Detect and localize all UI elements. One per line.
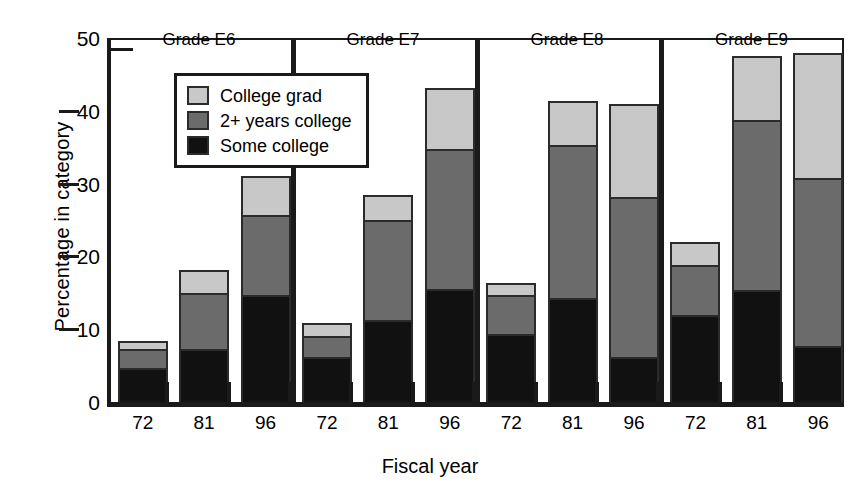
- bar-segment-two-years-college: [427, 149, 473, 289]
- bar-segment-two-years-college: [795, 178, 841, 345]
- x-tick-label: 81: [194, 412, 215, 434]
- y-tick-mark-top: [111, 48, 133, 51]
- bar-segment-two-years-college: [734, 120, 780, 290]
- x-tick-label: 81: [562, 412, 583, 434]
- bar-segment-two-years-college: [243, 215, 289, 295]
- bar-segment-two-years-college: [365, 220, 411, 320]
- y-tick-mark: [59, 255, 79, 258]
- bar-stack: [548, 101, 598, 402]
- x-tick-mark: [288, 382, 292, 404]
- bar-stack: [732, 56, 782, 402]
- x-tick-mark: [656, 382, 660, 404]
- x-tick-mark: [779, 382, 783, 404]
- x-axis-title: Fiscal year: [0, 455, 860, 478]
- bar-segment-college-grad: [611, 106, 657, 198]
- x-tick-mark: [349, 382, 353, 404]
- bar-segment-college-grad: [550, 103, 596, 144]
- bar-segment-college-grad: [427, 90, 473, 150]
- bar-stack: [118, 341, 168, 402]
- x-tick-label: 81: [746, 412, 767, 434]
- y-tick-mark: [59, 110, 79, 113]
- bar-segment-college-grad: [734, 58, 780, 120]
- legend-label-some-college: Some college: [220, 137, 329, 155]
- bar-stack: [670, 242, 720, 402]
- x-tick-label: 72: [501, 412, 522, 434]
- legend-item-some-college: Some college: [187, 133, 352, 158]
- x-tick-mark: [595, 382, 599, 404]
- bar-segment-some-college: [672, 315, 718, 402]
- x-tick-label: 72: [685, 412, 706, 434]
- x-tick-mark: [227, 382, 231, 404]
- bar-segment-college-grad: [365, 197, 411, 220]
- legend-swatch-some-college: [187, 136, 209, 155]
- bar-stack: [609, 104, 659, 402]
- bar-segment-two-years-college: [672, 265, 718, 315]
- bar-segment-two-years-college: [181, 293, 227, 349]
- x-tick-mark: [411, 382, 415, 404]
- bar-stack: [486, 283, 536, 402]
- y-tick-mark: [59, 183, 79, 186]
- legend-item-college-grad: College grad: [187, 83, 352, 108]
- x-tick-label: 72: [316, 412, 337, 434]
- y-tick-mark: [59, 328, 79, 331]
- y-tick-label: 50: [48, 28, 100, 49]
- y-axis-ticks: 50403020100: [48, 0, 100, 495]
- bar-stack: [302, 323, 352, 402]
- bar-segment-some-college: [488, 334, 534, 402]
- bar-segment-some-college: [550, 298, 596, 402]
- bar-segment-some-college: [243, 295, 289, 402]
- bar-segment-two-years-college: [488, 295, 534, 334]
- bar-stack: [241, 176, 291, 402]
- legend-item-two-years-college: 2+ years college: [187, 108, 352, 133]
- bar-segment-some-college: [181, 349, 227, 402]
- bar-segment-some-college: [795, 346, 841, 402]
- bar-stack: [179, 270, 229, 402]
- bar-segment-some-college: [427, 289, 473, 402]
- legend-swatch-college-grad: [187, 86, 209, 105]
- x-tick-label: 96: [439, 412, 460, 434]
- bar-segment-college-grad: [243, 178, 289, 214]
- bar-segment-two-years-college: [550, 145, 596, 299]
- bar-segment-college-grad: [488, 285, 534, 295]
- bar-stack: [793, 53, 843, 402]
- bar-segment-college-grad: [672, 244, 718, 265]
- bar-segment-some-college: [365, 320, 411, 402]
- x-tick-label: 96: [623, 412, 644, 434]
- x-tick-mark: [165, 382, 169, 404]
- bar-segment-some-college: [304, 357, 350, 402]
- y-tick-label: 0: [48, 392, 100, 413]
- bar-segment-two-years-college: [120, 349, 166, 368]
- legend-label-two-years-college: 2+ years college: [220, 112, 352, 130]
- x-tick-mark: [718, 382, 722, 404]
- x-tick-label: 81: [378, 412, 399, 434]
- x-tick-label: 96: [255, 412, 276, 434]
- bar-segment-two-years-college: [611, 197, 657, 357]
- bar-segment-some-college: [734, 290, 780, 402]
- bar-chart-figure: Percentage in category 50403020100 Grade…: [0, 0, 860, 495]
- bar-stack: [425, 88, 475, 402]
- bar-stack: [363, 195, 413, 402]
- bar-segment-college-grad: [304, 325, 350, 335]
- x-tick-label: 72: [132, 412, 153, 434]
- legend: College grad 2+ years college Some colle…: [174, 73, 369, 168]
- legend-swatch-two-years-college: [187, 111, 209, 130]
- bar-segment-college-grad: [795, 55, 841, 178]
- x-tick-mark: [534, 382, 538, 404]
- bar-segment-college-grad: [181, 272, 227, 292]
- bar-segment-some-college: [120, 368, 166, 402]
- x-tick-label: 96: [808, 412, 829, 434]
- bar-segment-some-college: [611, 357, 657, 402]
- legend-label-college-grad: College grad: [220, 87, 322, 105]
- x-tick-mark: [472, 382, 476, 404]
- bar-segment-two-years-college: [304, 336, 350, 358]
